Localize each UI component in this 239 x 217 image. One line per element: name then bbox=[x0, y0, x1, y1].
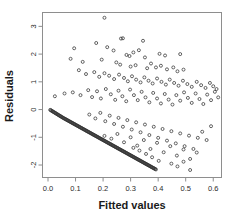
data-point bbox=[213, 90, 216, 93]
data-point bbox=[151, 156, 154, 159]
data-point bbox=[109, 93, 112, 96]
data-point bbox=[121, 37, 124, 40]
data-point bbox=[189, 169, 192, 172]
data-point bbox=[144, 96, 147, 99]
data-point bbox=[202, 103, 205, 106]
data-point bbox=[158, 52, 161, 55]
data-point bbox=[77, 69, 80, 72]
data-point bbox=[135, 121, 138, 124]
data-point bbox=[183, 145, 186, 148]
data-point bbox=[108, 114, 111, 117]
data-point bbox=[145, 152, 148, 155]
data-point bbox=[179, 99, 182, 102]
data-point bbox=[131, 75, 134, 78]
data-point bbox=[186, 96, 189, 99]
data-point bbox=[149, 147, 152, 150]
data-point bbox=[104, 88, 107, 91]
data-point bbox=[96, 90, 99, 93]
data-point bbox=[138, 149, 141, 152]
data-point bbox=[182, 148, 185, 151]
data-point bbox=[175, 94, 178, 97]
data-point bbox=[196, 136, 199, 139]
data-point bbox=[182, 68, 185, 71]
y-axis-tick-labels: 3210-1-2 bbox=[29, 24, 38, 168]
data-point bbox=[130, 128, 133, 131]
data-point bbox=[119, 63, 122, 66]
data-point bbox=[132, 51, 135, 54]
data-point bbox=[69, 57, 72, 60]
data-point bbox=[208, 81, 211, 84]
data-point bbox=[94, 117, 97, 120]
data-point bbox=[103, 16, 106, 19]
data-point bbox=[148, 101, 151, 104]
data-point bbox=[176, 165, 179, 168]
x-axis-tick-labels: 0.00.10.20.30.40.50.6 bbox=[43, 184, 219, 193]
data-point bbox=[175, 154, 178, 157]
data-point bbox=[104, 120, 107, 123]
scatter-points bbox=[53, 16, 219, 171]
data-point bbox=[186, 83, 189, 86]
data-point bbox=[93, 71, 96, 74]
data-point bbox=[103, 134, 106, 137]
data-point bbox=[179, 132, 182, 135]
data-point bbox=[146, 67, 149, 70]
data-point bbox=[129, 65, 132, 68]
data-point bbox=[136, 99, 139, 102]
data-point bbox=[159, 64, 162, 67]
data-point bbox=[123, 141, 126, 144]
data-point bbox=[174, 142, 177, 145]
data-point bbox=[162, 151, 165, 154]
data-point bbox=[176, 70, 179, 73]
y-tick-label: -1 bbox=[29, 134, 38, 141]
data-point bbox=[157, 136, 160, 139]
data-point bbox=[135, 78, 138, 81]
data-point bbox=[161, 127, 164, 130]
data-point bbox=[192, 147, 195, 150]
x-tick-label: 0.6 bbox=[208, 184, 218, 193]
data-point bbox=[132, 94, 135, 97]
data-point bbox=[190, 85, 193, 88]
data-point bbox=[129, 88, 132, 91]
data-point bbox=[134, 64, 137, 67]
data-point bbox=[195, 151, 198, 154]
x-axis-ticks bbox=[48, 178, 213, 182]
x-tick-label: 0.2 bbox=[98, 184, 108, 193]
y-axis-ticks bbox=[39, 26, 43, 165]
data-point bbox=[179, 53, 182, 56]
data-point bbox=[189, 157, 192, 160]
y-tick-label: 1 bbox=[29, 80, 38, 84]
data-point bbox=[53, 95, 56, 98]
data-point bbox=[125, 53, 128, 56]
data-point bbox=[142, 139, 145, 142]
data-point bbox=[137, 49, 140, 52]
data-point bbox=[113, 122, 116, 125]
data-point bbox=[165, 139, 168, 142]
data-point bbox=[165, 68, 168, 71]
x-tick-label: 0.5 bbox=[180, 184, 190, 193]
data-point bbox=[205, 139, 208, 142]
data-point bbox=[126, 80, 129, 83]
data-point bbox=[113, 78, 116, 81]
data-point bbox=[148, 134, 151, 137]
data-point bbox=[103, 72, 106, 75]
data-point bbox=[143, 56, 146, 59]
data-point bbox=[143, 123, 146, 126]
data-point bbox=[95, 42, 98, 45]
data-point bbox=[164, 83, 167, 86]
data-point bbox=[118, 73, 121, 76]
data-point bbox=[128, 55, 131, 58]
y-tick-label: 0 bbox=[29, 107, 38, 111]
data-point bbox=[99, 111, 102, 114]
data-point bbox=[164, 54, 167, 57]
chart-canvas: 0.00.10.20.30.40.50.6 3210-1-2 Fitted va… bbox=[0, 0, 239, 217]
data-point bbox=[204, 86, 207, 89]
data-point bbox=[151, 82, 154, 85]
data-point bbox=[85, 73, 88, 76]
data-point bbox=[114, 98, 117, 101]
data-point bbox=[63, 92, 66, 95]
data-point bbox=[88, 113, 91, 116]
data-point bbox=[81, 60, 84, 63]
data-point bbox=[194, 92, 197, 95]
x-axis-title: Fitted values bbox=[98, 199, 165, 211]
data-point bbox=[157, 159, 160, 162]
